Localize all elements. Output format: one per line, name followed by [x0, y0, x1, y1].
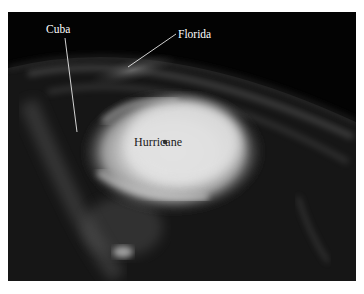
florida-label: Florida	[178, 29, 211, 41]
satellite-photo	[8, 12, 356, 281]
hurricane-label: Hurricane	[134, 136, 182, 148]
satellite-imagery	[8, 12, 356, 281]
cuba-label: Cuba	[46, 24, 70, 36]
